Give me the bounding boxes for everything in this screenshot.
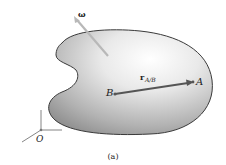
point-B-label: B	[105, 87, 113, 98]
r-subscript: A/B	[144, 76, 156, 83]
figure-caption: (a)	[107, 152, 118, 161]
point-A-marker	[192, 81, 195, 84]
origin-point	[40, 129, 43, 132]
omega-label: ω	[78, 9, 86, 19]
origin-label: O	[36, 134, 44, 144]
rigid-body-diagram: ω B A r A/B O (a)	[0, 0, 226, 165]
point-A-label: A	[195, 76, 203, 87]
point-B-marker	[113, 92, 116, 95]
